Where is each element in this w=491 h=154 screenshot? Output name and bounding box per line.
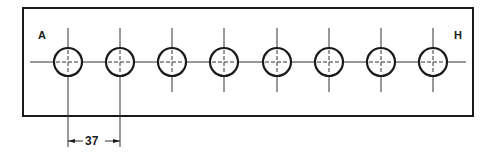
hole-b xyxy=(106,28,134,92)
dimension-value: 37 xyxy=(83,135,100,147)
hole-d xyxy=(210,28,238,92)
holes-group xyxy=(54,28,447,92)
label-end-h: H xyxy=(454,30,462,41)
label-start-a: A xyxy=(38,30,46,41)
hole-a xyxy=(54,28,82,92)
arrowhead-left xyxy=(68,139,75,143)
hole-pattern-drawing xyxy=(0,0,491,154)
hole-h xyxy=(419,28,447,92)
hole-e xyxy=(263,28,291,92)
hole-g xyxy=(367,28,395,92)
hole-f xyxy=(315,28,343,92)
arrowhead-right xyxy=(113,139,120,143)
hole-c xyxy=(158,28,186,92)
